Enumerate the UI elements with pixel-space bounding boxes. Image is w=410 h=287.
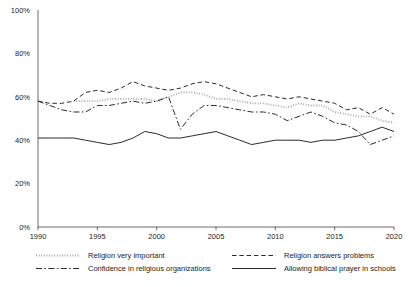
legend-item-label: Confidence in religious organizations xyxy=(88,264,211,273)
x-tick-label: 2000 xyxy=(148,232,165,241)
chart-axes xyxy=(38,10,394,230)
x-tick-label: 2020 xyxy=(386,232,403,241)
y-tick-label: 60% xyxy=(15,93,30,102)
series-line xyxy=(74,92,394,122)
legend-item[interactable]: Allowing biblical prayer in schools xyxy=(232,264,396,273)
series-line xyxy=(38,82,394,115)
y-tick-label: 100% xyxy=(11,6,31,15)
x-tick-label: 1990 xyxy=(30,232,47,241)
y-tick-label: 80% xyxy=(15,49,30,58)
legend-item-label: Religion very important xyxy=(88,251,166,260)
series-line xyxy=(38,127,394,144)
y-axis-tick-labels: 0%20%40%60%80%100% xyxy=(11,6,31,232)
x-tick-label: 2010 xyxy=(267,232,284,241)
legend-item[interactable]: Confidence in religious organizations xyxy=(36,264,211,273)
line-chart: 0%20%40%60%80%100% 199019952000200520102… xyxy=(0,0,410,287)
legend-item[interactable]: Religion very important xyxy=(36,251,166,260)
chart-legend: Religion very importantReligion answers … xyxy=(36,251,396,273)
y-tick-label: 40% xyxy=(15,136,30,145)
chart-series-group xyxy=(38,82,394,145)
y-tick-label: 20% xyxy=(15,179,30,188)
chart-container: 0%20%40%60%80%100% 199019952000200520102… xyxy=(0,0,410,287)
x-tick-label: 1995 xyxy=(89,232,106,241)
legend-item-label: Allowing biblical prayer in schools xyxy=(284,264,396,273)
legend-item[interactable]: Religion answers problems xyxy=(232,251,374,260)
series-line xyxy=(38,97,394,145)
legend-item-label: Religion answers problems xyxy=(284,251,374,260)
x-axis-tick-labels: 1990199520002005201020152020 xyxy=(30,232,403,241)
x-tick-label: 2015 xyxy=(326,232,343,241)
y-tick-label: 0% xyxy=(19,223,30,232)
x-tick-label: 2005 xyxy=(208,232,225,241)
